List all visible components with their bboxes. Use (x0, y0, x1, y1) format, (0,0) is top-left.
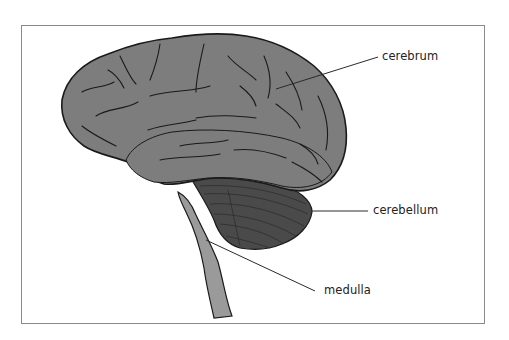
label-cerebellum: cerebellum (373, 203, 438, 217)
label-medulla: medulla (324, 283, 371, 297)
label-cerebrum: cerebrum (382, 49, 438, 63)
